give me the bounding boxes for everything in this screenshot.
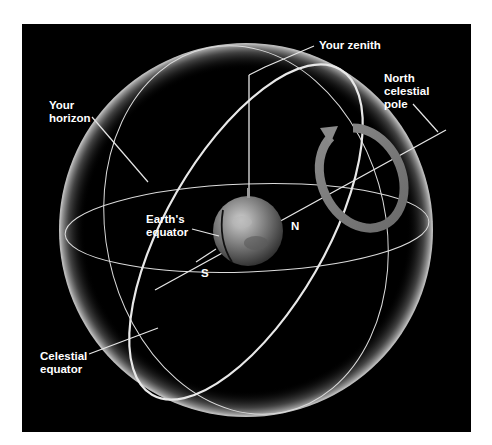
south-label: S: [201, 267, 209, 280]
horizon-label: Your horizon: [49, 99, 91, 125]
north-label: N: [291, 220, 299, 233]
earth-equator-label: Earth's equator: [146, 213, 188, 239]
celestial-sphere-diagram: [0, 0, 492, 445]
celestial-equator-label: Celestial equator: [40, 350, 87, 376]
north-celestial-pole-label: North celestial pole: [384, 72, 429, 111]
zenith-label: Your zenith: [319, 39, 381, 52]
